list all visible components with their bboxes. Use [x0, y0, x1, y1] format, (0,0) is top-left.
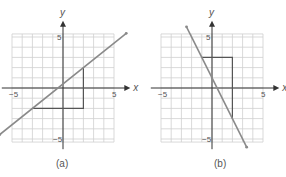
graph-panel-b: xy−555−5 (b) [143, 0, 286, 177]
y-axis-label: y [59, 7, 66, 18]
x-axis-label: x [281, 82, 286, 93]
coordinate-plane-a: xy−555−5 [0, 0, 143, 177]
y-axis-arrow-icon [209, 21, 215, 27]
coordinate-plane-b: xy−555−5 [143, 0, 286, 177]
x-axis-arrow-icon [273, 85, 279, 91]
tick-label-x-max: 5 [261, 90, 266, 99]
tick-label-y-min: −5 [202, 135, 212, 144]
tick-label-y-min: −5 [53, 135, 63, 144]
caption-b: (b) [214, 158, 226, 169]
tick-label-x-min: −5 [9, 90, 19, 99]
line-endpoint [125, 32, 128, 35]
line-endpoint [185, 25, 188, 28]
graph-panel-a: xy−555−5 (a) [0, 0, 143, 177]
line-endpoint [245, 146, 248, 149]
tick-label-y-max: 5 [57, 33, 62, 42]
caption-a: (a) [56, 158, 68, 169]
tick-label-x-max: 5 [112, 90, 117, 99]
tick-label-x-min: −5 [158, 90, 168, 99]
x-axis-arrow-icon [124, 85, 130, 91]
y-axis-label: y [208, 7, 215, 18]
x-axis-label: x [132, 82, 139, 93]
y-axis-arrow-icon [60, 21, 66, 27]
tick-label-y-max: 5 [206, 33, 211, 42]
